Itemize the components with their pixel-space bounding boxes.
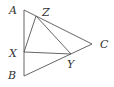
segment-zy — [36, 16, 71, 54]
segment-xy — [24, 52, 71, 54]
label-x: X — [8, 47, 18, 60]
label-z: Z — [41, 6, 50, 19]
label-a: A — [8, 4, 17, 17]
label-y: Y — [67, 58, 76, 71]
segment-bc — [24, 44, 92, 76]
segment-ac — [24, 10, 92, 44]
segment-xz — [24, 16, 36, 52]
label-b: B — [7, 69, 16, 82]
label-c: C — [100, 38, 109, 51]
triangle-diagram: A Z C X Y B — [0, 0, 114, 87]
